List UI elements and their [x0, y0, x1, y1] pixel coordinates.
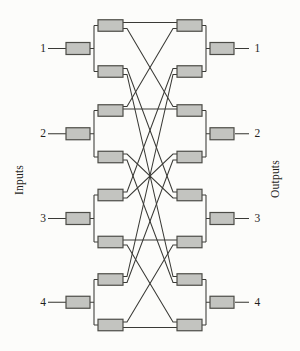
stage3-element-box-2: [177, 66, 202, 78]
switching-network-figure: 1 2 3 4 1 2 3 4 Inputs Outputs: [0, 0, 300, 351]
crossconnect-s2-7-to-s3-2: [123, 75, 177, 277]
output-switch-box-2: [210, 128, 234, 140]
stage2-element-box-6: [98, 236, 123, 248]
input-fanout-bracket-4: [90, 280, 98, 326]
stage3-element-box-7: [177, 274, 202, 286]
input-fanout-bracket-1: [90, 26, 98, 72]
stage2-element-box-5: [98, 189, 123, 201]
input-switch-box-1: [66, 43, 90, 55]
stage3-element-box-8: [177, 319, 202, 331]
outputs-axis-label: Outputs: [269, 160, 282, 198]
output-port-label-4: 4: [255, 296, 261, 308]
output-switch-box-4: [210, 296, 234, 308]
inputs-axis-label: Inputs: [13, 165, 26, 195]
stage3-element-box-4: [177, 151, 202, 163]
stage2-element-box-8: [98, 319, 123, 331]
output-port-label-2: 2: [255, 127, 261, 139]
input-port-label-2: 2: [40, 127, 46, 139]
stage3-element-box-1: [177, 20, 202, 32]
output-port-label-3: 3: [255, 212, 261, 224]
input-switch-box-3: [66, 213, 90, 225]
stage3-element-box-6: [177, 236, 202, 248]
input-switch-box-4: [66, 296, 90, 308]
labels-layer: 1 2 3 4 1 2 3 4 Inputs Outputs: [13, 42, 282, 308]
input-port-label-3: 3: [40, 212, 46, 224]
output-fanin-bracket-4: [202, 280, 210, 326]
input-switch-box-2: [66, 128, 90, 140]
wires-layer: [48, 23, 249, 328]
stage2-element-box-7: [98, 274, 123, 286]
stage2-element-box-3: [98, 105, 123, 117]
output-fanin-bracket-3: [202, 195, 210, 242]
output-fanin-bracket-1: [202, 26, 210, 72]
stage2-element-box-1: [98, 20, 123, 32]
stage3-element-box-3: [177, 105, 202, 117]
stage2-element-box-4: [98, 151, 123, 163]
crossconnect-s2-7-to-s3-4: [123, 160, 177, 283]
input-port-label-4: 4: [40, 296, 46, 308]
stage2-element-box-2: [98, 66, 123, 78]
input-fanout-bracket-2: [90, 111, 98, 158]
output-port-label-1: 1: [255, 42, 261, 54]
output-fanin-bracket-2: [202, 111, 210, 158]
input-port-label-1: 1: [40, 42, 46, 54]
input-fanout-bracket-3: [90, 195, 98, 242]
network-svg: 1 2 3 4 1 2 3 4 Inputs Outputs: [0, 0, 300, 351]
output-switch-box-3: [210, 213, 234, 225]
stage3-element-box-5: [177, 189, 202, 201]
output-switch-box-1: [210, 43, 234, 55]
